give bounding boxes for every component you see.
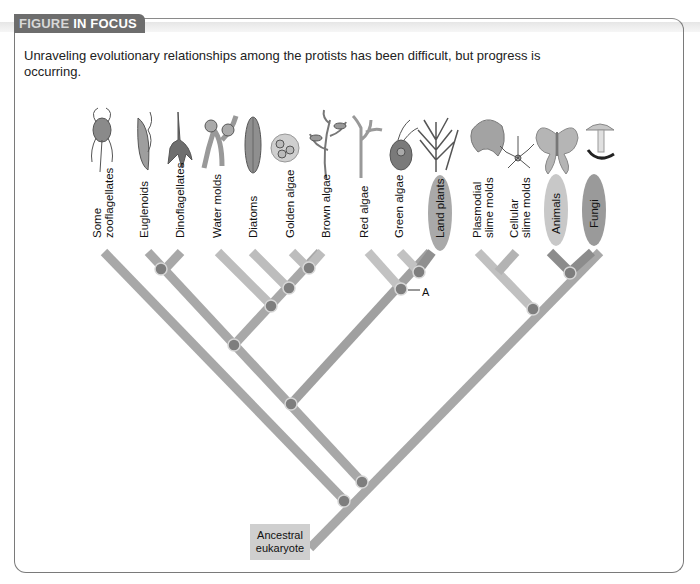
phylogenetic-tree	[0, 0, 700, 584]
node-stramenopiles	[228, 339, 240, 351]
taxon-label-plasmodial-slime-molds: Plasmodialslime molds	[471, 177, 495, 238]
node-opisthokonts	[564, 267, 576, 279]
water-mold-icon	[204, 116, 236, 168]
red-algae-icon	[353, 116, 382, 178]
zooflagellate-icon	[92, 108, 113, 172]
taxon-label-water-molds: Water molds	[211, 174, 223, 238]
branch-trunk-right	[310, 252, 600, 548]
green-algae-icon	[390, 120, 418, 170]
node-a-label: A	[422, 286, 429, 298]
branch-cellular-slime-molds	[498, 252, 516, 272]
branch-diatoms	[252, 252, 288, 288]
branch-archaeplastida	[291, 252, 430, 404]
euglenoid-icon	[138, 112, 152, 170]
node-amoebozoa-join	[527, 303, 539, 315]
ancestral-eukaryote-box: Ancestraleukaryote	[250, 524, 310, 560]
golden-algae-icon	[271, 134, 299, 162]
dinoflagellate-icon	[168, 112, 192, 168]
brown-algae-icon	[310, 110, 346, 178]
branch-zooflagellates	[104, 252, 344, 500]
branch-dinoflagellates	[166, 252, 181, 268]
moth-icon	[536, 128, 578, 174]
taxon-label-land-plants: Land plants	[434, 179, 446, 238]
node-root-split	[338, 495, 350, 507]
node-water-molds	[265, 300, 277, 312]
taxon-label-euglenoids: Euglenoids	[138, 181, 150, 238]
node-diatoms	[283, 282, 295, 294]
branch-red-algae	[368, 252, 401, 289]
taxon-label-zooflagellates: Somezooflagellates	[91, 168, 115, 238]
node-plant-clade-join	[285, 398, 297, 410]
node-a	[395, 283, 407, 295]
branch-nodes	[155, 262, 576, 507]
land-plant-icon	[418, 118, 458, 172]
node-golden-brown	[303, 262, 315, 274]
plasmodial-slime-mold-icon	[471, 120, 504, 156]
cellular-slime-mold-icon	[500, 136, 534, 168]
node-upper-split	[356, 476, 368, 488]
diatom-icon	[245, 117, 261, 173]
taxon-label-red-algae: Red algae	[358, 186, 370, 238]
node-euglenozoa	[155, 263, 167, 275]
taxon-label-animals: Animals	[550, 193, 562, 234]
taxon-label-fungi: Fungi	[588, 199, 600, 228]
taxon-label-cellular-slime-molds: Cellularslime molds	[508, 177, 532, 238]
node-green-plants	[413, 266, 425, 278]
taxon-label-brown-algae: Brown algae	[320, 174, 332, 238]
taxon-label-golden-algae: Golden algae	[284, 170, 296, 238]
taxon-label-green-algae: Green algae	[393, 175, 405, 238]
mushroom-icon	[586, 124, 614, 158]
taxon-label-diatoms: Diatoms	[247, 196, 259, 238]
taxon-label-dinoflagellates: Dinoflagellates	[174, 163, 186, 238]
